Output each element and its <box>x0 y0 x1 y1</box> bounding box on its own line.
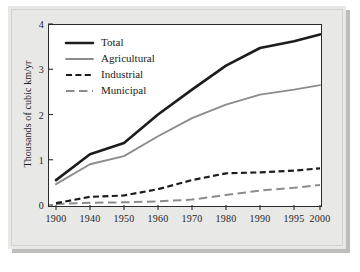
x-tick-label: 1940 <box>80 213 101 224</box>
series-group <box>56 34 320 204</box>
y-axis-ticks: 0 1 2 3 4 <box>39 19 53 211</box>
y-tick-label: 0 <box>39 200 44 211</box>
y-tick-label: 4 <box>39 19 44 30</box>
x-tick-label: 1995 <box>284 213 305 224</box>
figure-root: Thousands of cubic km/yr 0 1 2 3 4 19 <box>0 0 360 272</box>
series-line-total <box>56 34 320 180</box>
x-tick-label: 1990 <box>250 213 271 224</box>
y-axis-title: Thousands of cubic km/yr <box>22 60 33 168</box>
legend-entry-industrial: Industrial <box>66 68 143 80</box>
chart-legend: Total Agricultural Industrial Municipal <box>66 36 155 96</box>
x-tick-label: 1950 <box>114 213 135 224</box>
legend-label-industrial: Industrial <box>101 68 143 80</box>
legend-label-municipal: Municipal <box>101 84 146 96</box>
x-axis-ticks: 1900 1940 1950 1960 1970 1980 1990 1995 … <box>46 205 331 224</box>
x-tick-label: 1900 <box>46 213 67 224</box>
x-tick-label: 2000 <box>310 213 331 224</box>
series-line-industrial <box>56 168 320 203</box>
y-tick-label: 1 <box>39 155 44 166</box>
series-line-agricultural <box>56 85 320 184</box>
y-tick-label: 3 <box>39 64 44 75</box>
x-tick-label: 1970 <box>182 213 203 224</box>
y-tick-label: 2 <box>39 110 44 121</box>
line-chart: Thousands of cubic km/yr 0 1 2 3 4 19 <box>0 0 360 272</box>
legend-entry-agricultural: Agricultural <box>66 52 155 64</box>
x-tick-label: 1960 <box>148 213 169 224</box>
legend-label-total: Total <box>101 36 123 48</box>
legend-label-agricultural: Agricultural <box>101 52 155 64</box>
legend-entry-municipal: Municipal <box>66 84 146 96</box>
series-line-municipal <box>56 185 320 204</box>
legend-entry-total: Total <box>66 36 123 48</box>
x-tick-label: 1980 <box>216 213 237 224</box>
